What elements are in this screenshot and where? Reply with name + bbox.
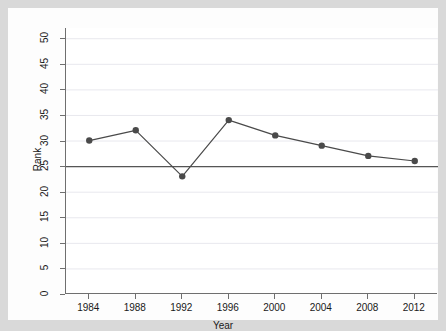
y-tick-label: 15 [39, 206, 50, 228]
x-tick-label: 2012 [393, 302, 435, 313]
gridlines [66, 39, 438, 269]
chart-canvas: Rank 05101520253035404550 19841988199219… [8, 8, 438, 320]
x-axis-title: Year [0, 320, 446, 331]
x-tick-mark [181, 294, 182, 299]
data-point [133, 127, 139, 133]
x-tick-mark [274, 294, 275, 299]
plot-svg [66, 28, 438, 294]
x-tick-mark [414, 294, 415, 299]
y-tick-label: 20 [39, 180, 50, 202]
data-point [226, 117, 232, 123]
x-tick-label: 2008 [346, 302, 388, 313]
x-tick-mark [228, 294, 229, 299]
y-tick-label: 45 [39, 52, 50, 74]
y-tick-label: 40 [39, 78, 50, 100]
plot-region [65, 28, 437, 294]
data-point [365, 153, 371, 159]
data-markers [86, 117, 418, 180]
x-tick-label: 1984 [67, 302, 109, 313]
y-tick-label: 0 [39, 283, 50, 305]
x-tick-label: 2000 [253, 302, 295, 313]
data-point [412, 158, 418, 164]
y-tick-label: 25 [39, 155, 50, 177]
x-tick-mark [321, 294, 322, 299]
y-tick-label: 10 [39, 231, 50, 253]
chart-figure: Rank 05101520253035404550 19841988199219… [0, 0, 446, 331]
y-tick-label: 50 [39, 27, 50, 49]
x-tick-label: 2004 [300, 302, 342, 313]
y-tick-label: 35 [39, 103, 50, 125]
data-point [272, 132, 278, 138]
y-tick-mark [60, 294, 65, 295]
y-tick-label: 5 [39, 257, 50, 279]
x-tick-label: 1996 [207, 302, 249, 313]
x-tick-label: 1992 [160, 302, 202, 313]
data-point [86, 137, 92, 143]
x-tick-mark [135, 294, 136, 299]
data-point [319, 142, 325, 148]
x-tick-mark [367, 294, 368, 299]
x-tick-mark [88, 294, 89, 299]
y-tick-label: 30 [39, 129, 50, 151]
data-point [179, 173, 185, 179]
x-tick-label: 1988 [114, 302, 156, 313]
